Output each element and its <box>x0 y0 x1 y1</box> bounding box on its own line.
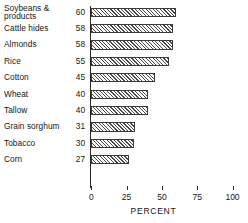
bar-value-label: 55 <box>60 57 85 66</box>
bar-chart: Soybeans & products60Cattle hides58Almon… <box>0 0 247 223</box>
bar-value-label: 27 <box>60 155 85 164</box>
plot-area: Soybeans & products60Cattle hides58Almon… <box>0 0 247 223</box>
bar-row: Cattle hides58 <box>0 24 247 40</box>
x-axis-tick-label: 100 <box>218 192 248 202</box>
bar <box>91 40 173 49</box>
bar-row: Grain sorghum31 <box>0 122 247 138</box>
x-axis-tick <box>127 186 128 190</box>
x-axis-tick <box>162 186 163 190</box>
bar <box>91 122 135 131</box>
bar-row: Tallow40 <box>0 106 247 122</box>
bar-value-label: 30 <box>60 139 85 148</box>
bar-value-label: 58 <box>60 40 85 49</box>
x-axis-tick-label: 0 <box>76 192 106 202</box>
bar-value-label: 40 <box>60 106 85 115</box>
x-axis-tick-label: 25 <box>112 192 142 202</box>
bar-row: Soybeans & products60 <box>0 8 247 24</box>
x-axis-title: PERCENT <box>0 206 247 216</box>
bar-value-label: 45 <box>60 73 85 82</box>
bar <box>91 90 147 99</box>
y-axis-line <box>90 6 91 188</box>
bar <box>91 57 169 66</box>
bar-value-label: 40 <box>60 90 85 99</box>
x-axis-tick <box>233 186 234 190</box>
bar-row: Almonds58 <box>0 40 247 56</box>
x-axis-tick <box>197 186 198 190</box>
bar <box>91 8 176 17</box>
bar <box>91 24 173 33</box>
bar-value-label: 60 <box>60 8 85 17</box>
bar <box>91 139 133 148</box>
bar-row: Corn27 <box>0 155 247 171</box>
bar-row: Cotton45 <box>0 73 247 89</box>
x-axis-tick-label: 50 <box>147 192 177 202</box>
bar <box>91 106 147 115</box>
bar-row: Wheat40 <box>0 90 247 106</box>
bar-value-label: 58 <box>60 24 85 33</box>
bar <box>91 73 155 82</box>
x-axis-tick <box>91 186 92 190</box>
bar-value-label: 31 <box>60 122 85 131</box>
bar-row: Rice55 <box>0 57 247 73</box>
x-axis-tick-label: 75 <box>182 192 212 202</box>
bar-row: Tobacco30 <box>0 139 247 155</box>
bar <box>91 155 129 164</box>
